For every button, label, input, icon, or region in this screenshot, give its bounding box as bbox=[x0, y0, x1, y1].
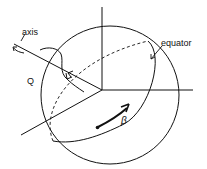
equator-point bbox=[96, 126, 100, 130]
equator-label: equator bbox=[161, 38, 192, 48]
q-label: Q bbox=[27, 76, 34, 86]
sphere-outline bbox=[41, 26, 179, 164]
beta-label: β bbox=[120, 115, 127, 126]
equator-front bbox=[53, 41, 155, 142]
rotation-arrow bbox=[40, 48, 84, 92]
diagonal-axis-front bbox=[21, 90, 102, 135]
axis-label: axis bbox=[22, 27, 39, 37]
sphere-diagram: axis equator Q β bbox=[0, 0, 207, 169]
